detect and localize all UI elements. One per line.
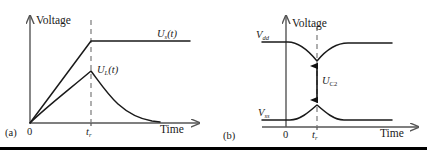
panel-b-curve-vss-node <box>262 105 392 120</box>
panel-b-label-uc2-sub: C2 <box>330 80 338 87</box>
panel-a-label-load-voltage-base: U <box>97 64 105 75</box>
panel-a-tick-tr: tr <box>86 127 91 138</box>
panel-a-tag: (a) <box>5 128 17 139</box>
panel-a-curve-source-voltage <box>30 41 190 123</box>
panel-a-origin-label: 0 <box>27 127 32 138</box>
panel-b-label-vdd-sub: dd <box>262 34 269 41</box>
panel-b-origin-label: 0 <box>283 130 288 141</box>
panel-a-label-source-voltage-base: U <box>157 28 165 39</box>
panel-b-x-axis-label: Time <box>380 128 404 140</box>
panel-b-tick-tr: tr <box>312 130 317 141</box>
panel-b-y-axis-label: Voltage <box>292 18 327 30</box>
panel-b-label-vdd: Vdd <box>256 30 269 41</box>
panel-b-tick-tr-sub: r <box>315 134 318 141</box>
panel-a-label-load-voltage: UL(t) <box>97 65 118 76</box>
panel-a-x-axis-label: Time <box>160 124 184 136</box>
panel-a-y-axis-label: Voltage <box>36 15 71 27</box>
panel-a-label-load-voltage-suffix: (t) <box>108 64 118 75</box>
panel-b-label-uc2: UC2 <box>322 76 337 87</box>
panel-b-tag: (b) <box>223 131 235 142</box>
panel-b-curve-vdd-node <box>262 42 392 61</box>
panel-a-label-source-voltage: Us(t) <box>157 29 177 40</box>
panel-b-label-uc2-base: U <box>322 75 330 86</box>
panel-b-label-vss-sub: ss <box>264 112 269 119</box>
panel-b-label-vss: Vss <box>258 108 269 119</box>
figure-container: Voltage Time (a) 0 tr Us(t) UL(t) Voltag… <box>0 0 427 154</box>
panel-a-label-source-voltage-suffix: (t) <box>167 28 177 39</box>
panel-a-tick-tr-sub: r <box>89 131 92 138</box>
panel-b-graph <box>262 16 418 130</box>
